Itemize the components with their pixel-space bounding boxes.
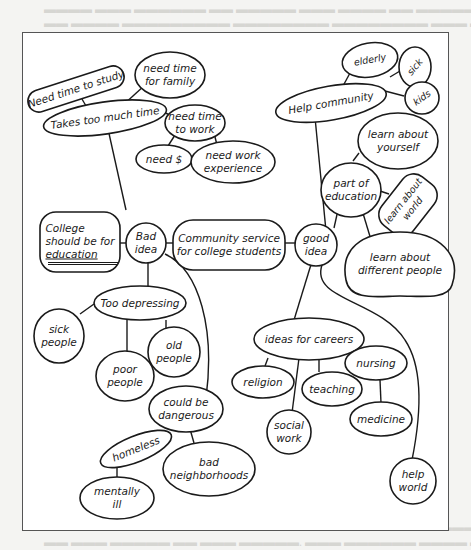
- college-line-2: should be for: [45, 235, 114, 248]
- node-bad-neighborhoods: bad neighborhoods: [170, 456, 248, 482]
- node-shapes: [25, 38, 454, 519]
- node-sick-people: sick people: [41, 323, 77, 349]
- node-nursing: nursing: [356, 357, 395, 370]
- node-mentally-ill: mentally ill: [94, 485, 140, 511]
- node-could-be-dangerous: could be dangerous: [158, 396, 214, 422]
- node-need-work-experience: need work experience: [204, 149, 262, 175]
- node-good-idea: good idea: [303, 232, 329, 258]
- node-religion: religion: [243, 376, 282, 389]
- node-center-community-service: Community service for college students: [177, 232, 281, 258]
- node-old-people: old people: [156, 339, 192, 365]
- node-poor-people: poor people: [107, 363, 143, 389]
- node-learn-about-different-people: learn about different people: [358, 251, 442, 277]
- college-line-1: College: [45, 222, 114, 235]
- node-need-time-for-family: need time for family: [143, 62, 196, 88]
- node-medicine: medicine: [357, 413, 405, 426]
- node-learn-about-yourself: learn about yourself: [368, 128, 428, 154]
- node-too-depressing: Too depressing: [100, 297, 179, 310]
- node-teaching: teaching: [309, 383, 355, 396]
- node-need-money: need $: [146, 153, 182, 166]
- college-line-3: education: [45, 248, 114, 261]
- node-part-of-education: part of education: [325, 177, 377, 203]
- node-bad-idea: Bad idea: [135, 230, 157, 256]
- node-need-time-to-work: need time to work: [168, 110, 221, 136]
- node-ideas-for-careers: ideas for careers: [265, 333, 353, 346]
- node-social-work: social work: [274, 419, 304, 445]
- node-help-world: help world: [399, 468, 428, 494]
- double-underline: [48, 262, 118, 265]
- node-college-should-be-for-education: College should be for education: [45, 222, 114, 261]
